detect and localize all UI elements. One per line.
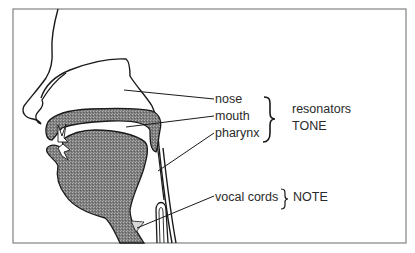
group-resonators: resonators [292,102,351,116]
vocal-tract-diagram: nose mouth pharynx vocal cords resonator… [0,0,415,253]
frame [13,9,406,243]
brace-note [281,189,288,209]
group-note: NOTE [293,190,328,204]
label-mouth: mouth [215,109,250,123]
brace-resonators [263,97,275,142]
group-tone: TONE [292,119,327,133]
leader-vocal-cords [137,196,214,228]
trachea-inner [159,208,164,244]
label-nose: nose [215,92,242,106]
label-vocal-cords: vocal cords [215,190,278,204]
leader-nose [124,90,214,99]
label-pharynx: pharynx [215,126,260,140]
face-profile [23,9,58,124]
leader-pharynx [158,133,214,171]
